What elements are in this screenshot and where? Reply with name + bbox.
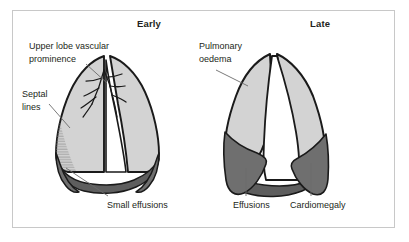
annotation-septal-lines: Septal lines xyxy=(22,88,68,113)
annotation-effusions: Effusions xyxy=(233,199,270,212)
annotation-upper-lobe-vascular-prominence: Upper lobe vascular prominence xyxy=(29,40,134,65)
panel-title-late: Late xyxy=(310,18,330,29)
heart-failure-chest-xray-figure: Early Late Upper lobe vascular prominenc… xyxy=(0,0,409,242)
annotation-pulmonary-oedema: Pulmonary oedema xyxy=(199,40,279,65)
panel-title-early: Early xyxy=(137,18,161,29)
annotation-small-effusions: Small effusions xyxy=(107,199,168,212)
annotation-cardiomegaly: Cardiomegaly xyxy=(290,199,346,212)
